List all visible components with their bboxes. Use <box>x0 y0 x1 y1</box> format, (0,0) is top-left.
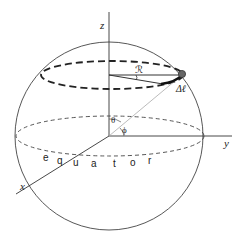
equator-letter: e <box>43 152 49 163</box>
y-axis-label: y <box>223 137 229 149</box>
arc-length-label: Δℓ <box>175 83 186 94</box>
theta-label: θ <box>111 115 115 125</box>
point-mass <box>178 70 185 77</box>
phi-label: ϕ <box>122 125 127 135</box>
z-axis-label: z <box>99 19 105 31</box>
equator-letter: q <box>57 155 63 166</box>
radial-line <box>109 75 182 136</box>
equator-letter: u <box>73 157 79 168</box>
equator-letter: o <box>130 157 136 168</box>
angle-arc <box>136 75 137 80</box>
spherical-coordinates-diagram: z y x ℛ Δℓ θ ϕ e q u a t o r <box>0 0 247 239</box>
equator-letter: r <box>148 155 152 166</box>
x-axis-label: x <box>19 180 25 192</box>
equator-letter: t <box>113 158 116 169</box>
radius-label: ℛ <box>135 64 143 75</box>
equator-letter: a <box>91 158 97 169</box>
